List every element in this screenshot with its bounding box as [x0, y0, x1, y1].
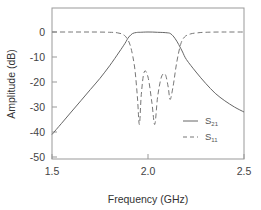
y-tick-label: -40: [30, 126, 45, 138]
y-tick-label: -10: [30, 51, 45, 63]
legend-label-s11: S11: [205, 131, 218, 143]
y-axis-label: Amplitude (dB): [5, 49, 17, 118]
legend-item-s11: S11: [183, 131, 218, 143]
legend-item-s21: S21: [183, 115, 219, 127]
x-tick-label: 1.5: [45, 165, 60, 177]
legend: S21 S11: [183, 115, 219, 143]
series-lines: [52, 32, 244, 135]
series-line-s11: [52, 32, 244, 125]
x-tick-label: 2.0: [141, 165, 156, 177]
y-tick-label: -50: [30, 151, 45, 163]
x-axis-label: Frequency (GHz): [108, 193, 189, 205]
y-tick-label: -20: [30, 76, 45, 88]
y-axis-ticks: 0-10-20-30-40-50: [30, 26, 57, 163]
y-tick-label: 0: [39, 26, 45, 38]
series-line-s21: [52, 32, 244, 135]
x-tick-label: 2.5: [237, 165, 252, 177]
chart: 0-10-20-30-40-50 1.52.02.5 Frequency (GH…: [0, 0, 261, 210]
legend-label-s21: S21: [205, 115, 219, 127]
x-axis-ticks: 1.52.02.5: [45, 154, 252, 177]
y-tick-label: -30: [30, 101, 45, 113]
